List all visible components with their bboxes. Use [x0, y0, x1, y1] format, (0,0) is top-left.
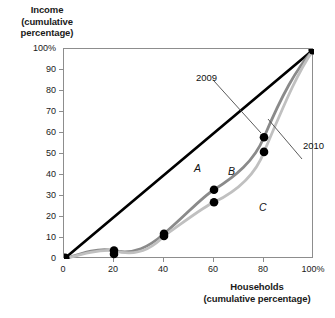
y-tick-label-100: 100% [22, 43, 56, 53]
x-tick-label-40: 40 [146, 264, 180, 274]
series-label-2010: 2010 [303, 140, 324, 151]
x-tick-label-20: 20 [96, 264, 130, 274]
x-tick-label-100: 100% [296, 264, 330, 274]
region-label-a: A [194, 162, 201, 174]
y-tick-label-0: 0 [22, 253, 56, 263]
equality-line-series [64, 49, 314, 259]
y-tick-label-50: 50 [22, 148, 56, 158]
y-axis-title-line-1: Income [6, 4, 88, 16]
series-label-2009: 2009 [196, 72, 217, 83]
x-tick-label-80: 80 [246, 264, 280, 274]
y-axis-title: Income (cumulative percentage) [6, 4, 88, 39]
y-tick-label-80: 80 [22, 85, 56, 95]
x-axis-title-line-1: Households [183, 281, 331, 293]
chart-canvas [64, 49, 314, 259]
leader-line-2009 [214, 81, 261, 133]
data-point-2010-60 [210, 198, 219, 207]
y-tick-label-90: 90 [22, 64, 56, 74]
y-axis-title-line-3: percentage) [6, 27, 88, 39]
plot-area [63, 48, 313, 258]
data-point-2010-80 [260, 148, 269, 157]
data-point-2010-40 [160, 232, 169, 241]
y-tick-label-60: 60 [22, 127, 56, 137]
y-axis-title-line-2: (cumulative [6, 16, 88, 28]
x-tick-label-60: 60 [196, 264, 230, 274]
y-tick-label-40: 40 [22, 169, 56, 179]
y-tick-label-20: 20 [22, 211, 56, 221]
data-point-2009-80 [260, 133, 269, 142]
y-tick-label-70: 70 [22, 106, 56, 116]
x-axis-title-line-2: (cumulative percentage) [183, 293, 331, 305]
lorenz-curve-figure: Income (cumulative percentage) 100% 90 8… [0, 0, 335, 318]
x-tick-label-0: 0 [46, 264, 80, 274]
region-label-c: C [259, 201, 267, 213]
data-point-2009-60 [210, 185, 219, 194]
y-tick-label-10: 10 [22, 232, 56, 242]
x-axis-title: Households (cumulative percentage) [183, 281, 331, 304]
data-point-2010-20 [110, 250, 119, 259]
region-label-b: B [228, 165, 235, 177]
leader-line-2010 [268, 119, 302, 159]
y-tick-label-30: 30 [22, 190, 56, 200]
